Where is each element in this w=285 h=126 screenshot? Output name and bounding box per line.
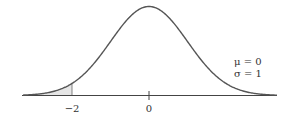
tick-label-zero: 0 xyxy=(146,103,152,114)
sigma-annotation: σ = 1 xyxy=(234,68,262,79)
normal-distribution-chart: −2 0 μ = 0 σ = 1 xyxy=(0,0,285,126)
normal-curve xyxy=(23,7,277,96)
tick-label-neg2: −2 xyxy=(65,103,80,114)
shaded-left-tail xyxy=(23,83,72,95)
mu-annotation: μ = 0 xyxy=(234,56,262,67)
